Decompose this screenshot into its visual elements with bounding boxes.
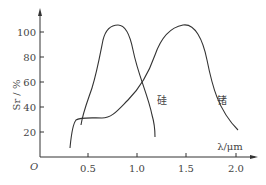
x-axis-arrow [250, 155, 258, 159]
series-si-label: 硅 [157, 94, 167, 106]
x-axis-label: λ/μm [217, 141, 243, 152]
x-ticks: 0.5 1.0 1.5 2.0 [80, 153, 244, 174]
y-axis-label: Sr / % [11, 80, 22, 111]
y-axis-arrow [38, 8, 42, 16]
series-ge-label: 锗 [217, 94, 227, 106]
origin-label: O [30, 161, 38, 172]
y-tick-60: 60 [23, 77, 36, 88]
y-tick-20: 20 [23, 127, 36, 138]
x-tick-0.5: 0.5 [80, 163, 96, 174]
y-tick-100: 100 [17, 27, 36, 38]
series-si-curve [81, 25, 155, 137]
chart-svg: 100 80 60 40 20 0.5 1.0 1.5 2.0 O λ/μm S… [0, 0, 266, 185]
x-tick-1.5: 1.5 [178, 163, 194, 174]
x-tick-2.0: 2.0 [228, 163, 244, 174]
x-tick-1.0: 1.0 [129, 163, 145, 174]
y-tick-40: 40 [23, 102, 36, 113]
series-ge-curve [70, 25, 238, 148]
chart: 100 80 60 40 20 0.5 1.0 1.5 2.0 O λ/μm S… [0, 0, 266, 185]
y-tick-80: 80 [23, 52, 36, 63]
